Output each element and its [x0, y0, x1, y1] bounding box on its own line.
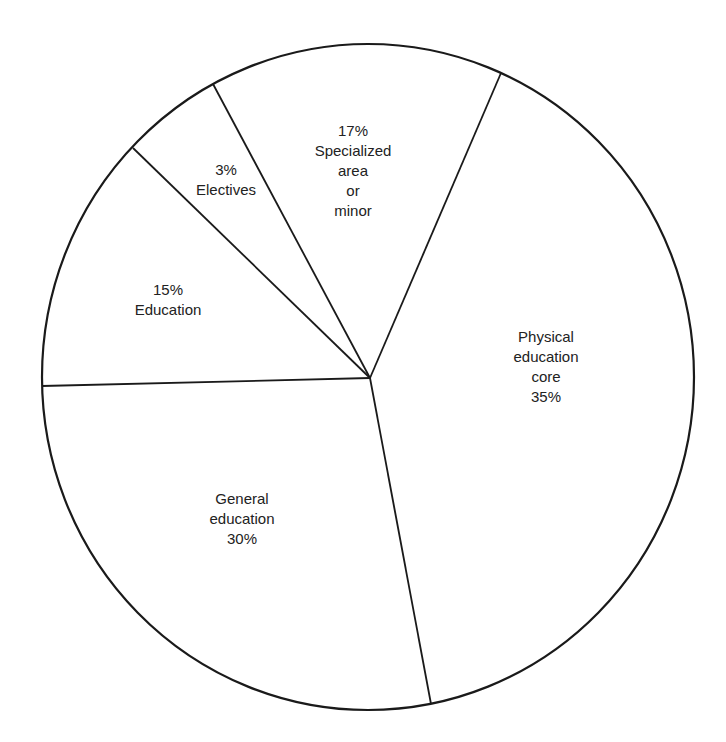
slice-label-specialized: 17% Specialized area or minor [315, 121, 392, 221]
label-line: 17% [315, 121, 392, 141]
label-line: area [315, 161, 392, 181]
label-line: education [209, 509, 274, 529]
pie-chart [0, 0, 726, 742]
label-line: minor [315, 201, 392, 221]
slice-label-electives: 3% Electives [196, 160, 256, 200]
label-line: General [209, 489, 274, 509]
label-line: core [513, 367, 578, 387]
label-line: Specialized [315, 141, 392, 161]
label-line: or [315, 181, 392, 201]
label-line: 15% [135, 280, 202, 300]
slice-label-education: 15% Education [135, 280, 202, 320]
label-line: 3% [196, 160, 256, 180]
slice-label-physical-education-core: Physical education core 35% [513, 327, 578, 407]
label-line: 35% [513, 387, 578, 407]
slice-label-general-education: General education 30% [209, 489, 274, 549]
label-line: Physical [513, 327, 578, 347]
label-line: Electives [196, 180, 256, 200]
label-line: Education [135, 300, 202, 320]
label-line: 30% [209, 529, 274, 549]
label-line: education [513, 347, 578, 367]
